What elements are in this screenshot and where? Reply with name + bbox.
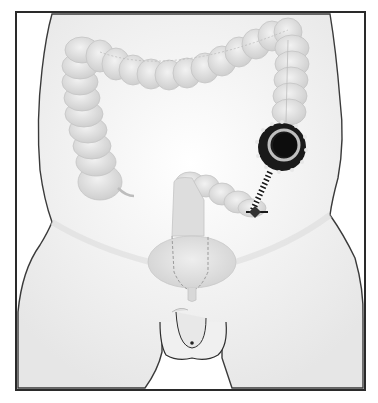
bladder: [148, 236, 236, 288]
colonoscopy-illustration: [0, 0, 378, 403]
descending-colon: [272, 35, 309, 125]
urethra: [188, 288, 196, 302]
anus-marker: [190, 341, 194, 345]
